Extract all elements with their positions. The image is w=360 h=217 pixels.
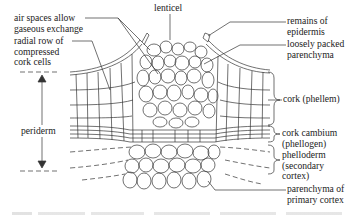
brace-cork [268, 72, 280, 125]
leader-air-spaces [85, 18, 158, 74]
caption-cutoff [12, 212, 342, 215]
label-line: cortex) [282, 171, 326, 182]
label-cork-cambium: cork cambium (phellogen) [282, 128, 337, 149]
label-line: cork cambium [282, 128, 337, 139]
label-radial-row: radial row of compressed cork cells [14, 36, 64, 68]
label-line: air spaces allow [14, 13, 83, 24]
label-air-spaces: air spaces allow gaseous exchange [14, 13, 83, 34]
brace-phelloderm [268, 145, 280, 174]
label-line: radial row of [14, 36, 64, 47]
periderm-arrow-up [38, 75, 46, 82]
label-phelloderm: phelloderm (secondary cortex) [282, 150, 326, 182]
label-line: (phellogen) [282, 139, 337, 150]
periderm-arrow-down [38, 161, 46, 168]
label-remains-epidermis: remains of epidermis [287, 16, 328, 37]
label-line: phelloderm [282, 150, 326, 161]
label-parenchyma-primary: parenchyma of primary cortex [287, 184, 344, 205]
label-line: parenchyma of [287, 184, 344, 195]
label-line: parenchyma [287, 50, 344, 61]
leader-parenchyma-primary [208, 181, 286, 190]
leader-remains-epidermis [208, 22, 286, 36]
label-line: epidermis [287, 27, 328, 38]
label-loosely-packed: loosely packed parenchyma [287, 39, 344, 60]
label-line: remains of [287, 16, 328, 27]
label-periderm: periderm [20, 126, 57, 137]
right-cork-surface [208, 40, 270, 70]
label-line: cork cells [14, 57, 64, 68]
label-lenticel: lenticel [154, 3, 182, 14]
label-line: gaseous exchange [14, 24, 83, 35]
label-cork: cork (phellem) [283, 94, 340, 105]
label-line: loosely packed [287, 39, 344, 50]
label-line: primary cortex [287, 195, 344, 206]
